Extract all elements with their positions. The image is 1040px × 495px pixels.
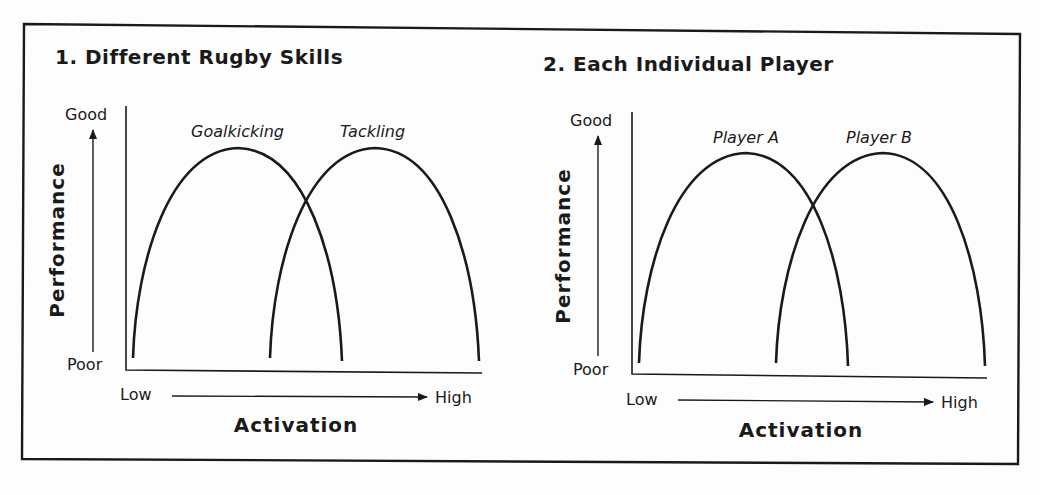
curve-label-tackling: Tackling — [340, 122, 405, 141]
x-axis-right-label: High — [435, 388, 472, 407]
panel-each-individual-player: 2. Each Individual Player Good Poor Perf… — [543, 52, 987, 442]
curve-player-a — [639, 153, 848, 366]
axes-lines — [126, 106, 482, 373]
y-axis-bottom-label: Poor — [67, 355, 103, 374]
curve-player-b — [776, 153, 985, 366]
curve-label-goalkicking: Goalkicking — [191, 122, 284, 141]
x-axis-arrow-icon — [172, 396, 427, 397]
x-axis-left-label: Low — [626, 390, 658, 409]
y-axis-top-label: Good — [65, 105, 107, 124]
curve-tackling — [270, 148, 479, 361]
curve-label-player-a: Player A — [713, 128, 779, 147]
y-axis-top-label: Good — [570, 111, 612, 130]
diagram-canvas: 1. Different Rugby Skills Good Poor Perf… — [0, 0, 1040, 495]
x-axis-title: Activation — [739, 418, 864, 442]
curve-label-player-b: Player B — [846, 128, 912, 147]
panel-title: 2. Each Individual Player — [543, 52, 834, 76]
panel-different-rugby-skills: 1. Different Rugby Skills Good Poor Perf… — [45, 45, 482, 437]
x-axis-right-label: High — [941, 393, 978, 412]
x-axis-title: Activation — [234, 413, 359, 437]
x-axis-arrow-icon — [678, 400, 933, 402]
axes-lines — [632, 112, 987, 378]
x-axis-left-label: Low — [120, 385, 152, 404]
panel-title: 1. Different Rugby Skills — [55, 45, 343, 69]
y-axis-title: Performance — [45, 162, 69, 317]
outer-frame — [22, 24, 1020, 464]
y-axis-bottom-label: Poor — [573, 360, 609, 379]
y-axis-title: Performance — [551, 168, 575, 323]
curve-goalkicking — [133, 148, 342, 361]
